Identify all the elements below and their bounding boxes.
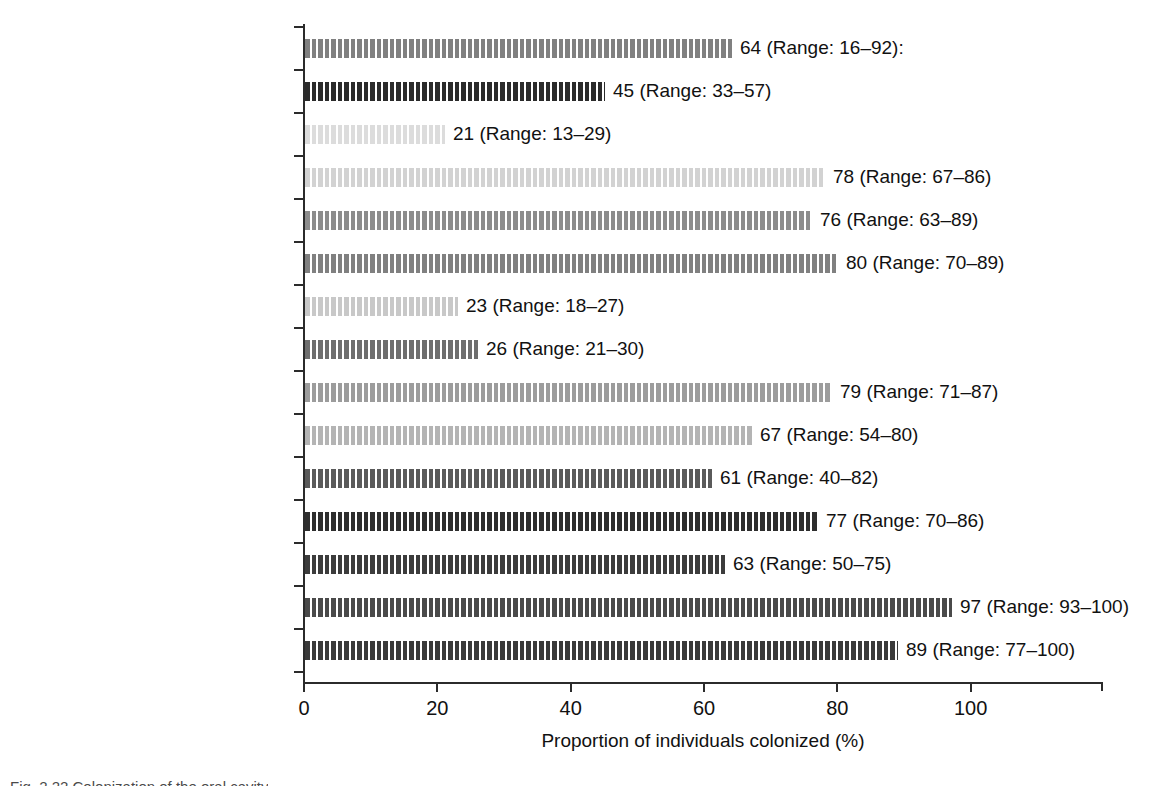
y-axis-tick [294,370,303,372]
y-axis-tick [294,456,303,458]
bar [305,641,898,660]
bar-row: Veillonella spp.78 (Range: 67–86) [303,156,1103,199]
bar-row: Helicobacter pylori64 (Range: 16–92): [303,27,1103,70]
y-axis-tick [294,628,303,630]
x-axis-tick [436,682,438,692]
y-axis-tick [294,69,303,71]
y-axis-tick [294,413,303,415]
bar [305,598,952,617]
bar [305,125,445,144]
x-axis-tick-label: 60 [693,696,715,720]
bar [305,168,825,187]
bar-value-label: 23 (Range: 18–27) [466,294,624,318]
bar-row: Micrococcus61 (Range: 40–82) [303,457,1103,500]
bar-value-label: 89 (Range: 77–100) [906,638,1075,662]
bar [305,254,838,273]
x-axis-tick-label: 40 [560,696,582,720]
figure-container: Helicobacter pylori64 (Range: 16–92):Bac… [0,0,1153,786]
bar [305,340,478,359]
bar-row: Yeasts23 (Range: 18–27) [303,285,1103,328]
bar [305,82,605,101]
y-axis-tick [294,585,303,587]
x-axis-tick [303,682,305,692]
x-axis-tick-label: 20 [426,696,448,720]
bar [305,555,725,574]
y-axis-tick [294,241,303,243]
bar-row: Neisseria spp.79 (Range: 71–87) [303,371,1103,414]
bar [305,383,832,402]
x-axis-tick-label: 100 [954,696,987,720]
bar-value-label: 79 (Range: 71–87) [840,380,998,404]
x-axis-tick [570,682,572,692]
bar-row: Bacteroides45 (Range: 33–57) [303,70,1103,113]
bar-value-label: 67 (Range: 54–80) [760,423,918,447]
bar [305,297,458,316]
y-axis-tick [294,499,303,501]
bar-value-label: 76 (Range: 63–89) [820,208,978,232]
y-axis-tick [294,542,303,544]
bar-value-label: 80 (Range: 70–89) [846,251,1004,275]
bar-row: Haemophilus spp.67 (Range: 54–80) [303,414,1103,457]
x-axis-tick-label: 0 [298,696,309,720]
y-axis-tick [294,112,303,114]
bar [305,512,818,531]
bar-value-label: 63 (Range: 50–75) [733,552,891,576]
x-axis-tick [703,682,705,692]
bar [305,426,752,445]
bar-value-label: 21 (Range: 13–29) [453,122,611,146]
bar-row: Enterobacteriaceae26 (Range: 21–30) [303,328,1103,371]
x-axis-tick-label: 80 [826,696,848,720]
bar-row: Streptococcus salivarius89 (Range: 77–10… [303,629,1103,672]
y-axis-tick [294,671,303,673]
bar [305,211,812,230]
bar-row: Staphylococcus spp.77 (Range: 70–86) [303,500,1103,543]
y-axis-tick [294,327,303,329]
bar-value-label: 26 (Range: 21–30) [486,337,644,361]
x-axis-tick [836,682,838,692]
plot-area: Helicobacter pylori64 (Range: 16–92):Bac… [303,24,1103,682]
bar-row: Actinomyces76 (Range: 63–89) [303,199,1103,242]
bar-value-label: 45 (Range: 33–57) [613,79,771,103]
bar-value-label: 64 (Range: 16–92): [740,36,904,60]
x-axis-tick [970,682,972,692]
bar-value-label: 61 (Range: 40–82) [720,466,878,490]
bar [305,469,712,488]
figure-caption: Fig. 2.22 Colonization of the oral cavit… [10,778,268,786]
bar-row: Streptococcus sanguis63 (Range: 50–75) [303,543,1103,586]
bar-row: Gram-positive anaerobic cocci80 (Range: … [303,242,1103,285]
bar-row: Fusobacterium spp.21 (Range: 13–29) [303,113,1103,156]
y-axis-tick [294,26,303,28]
y-axis-tick [294,155,303,157]
y-axis-tick [294,284,303,286]
bar-value-label: 78 (Range: 67–86) [833,165,991,189]
bar-row: Streptococcus mitior97 (Range: 93–100) [303,586,1103,629]
bar-value-label: 77 (Range: 70–86) [826,509,984,533]
x-axis-title: Proportion of individuals colonized (%) [303,730,1103,752]
x-axis-endcap [1101,682,1103,691]
bar-value-label: 97 (Range: 93–100) [960,595,1129,619]
bar [305,39,732,58]
y-axis-tick [294,198,303,200]
